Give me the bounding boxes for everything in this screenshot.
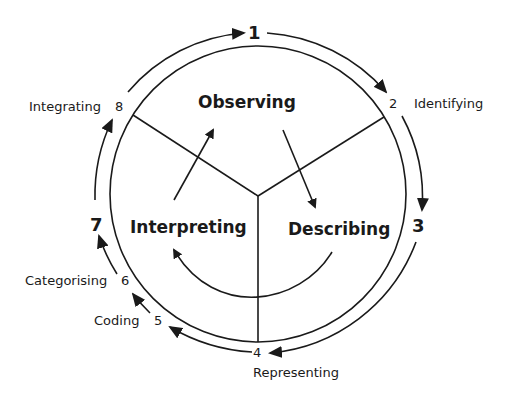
- step-6-number: 6: [121, 273, 129, 288]
- step-5-label: Coding: [94, 313, 139, 328]
- step-4-label: Representing: [253, 365, 339, 380]
- step-4-number: 4: [253, 345, 261, 360]
- step-6-label: Categorising: [25, 273, 107, 288]
- phase-observing: Observing: [198, 92, 296, 112]
- arrow-8-to-1: [128, 33, 244, 92]
- arrow-interpreting-to-observing: [174, 130, 213, 200]
- phase-describing: Describing: [288, 219, 390, 239]
- step-1-number: 1: [248, 22, 261, 43]
- arrow-6-to-7: [99, 236, 117, 274]
- diagram-canvas: [0, 0, 517, 402]
- step-8-label: Integrating: [29, 99, 101, 114]
- arrow-5-to-6: [133, 294, 150, 313]
- step-3-number: 3: [412, 215, 425, 236]
- step-2-label: Identifying: [414, 96, 483, 111]
- step-2-number: 2: [389, 96, 397, 111]
- divider-upper-left: [133, 115, 258, 196]
- arrow-observing-to-describing: [283, 130, 315, 207]
- phase-interpreting: Interpreting: [130, 217, 247, 237]
- divider-upper-right: [258, 117, 384, 196]
- arrow-2-to-3: [402, 116, 423, 210]
- step-5-number: 5: [154, 313, 162, 328]
- arrow-describing-to-interpreting: [174, 250, 332, 297]
- arrow-3-to-4: [270, 242, 416, 353]
- step-8-number: 8: [115, 99, 123, 114]
- step-7-number: 7: [90, 214, 103, 235]
- arrow-4-to-5: [170, 327, 252, 352]
